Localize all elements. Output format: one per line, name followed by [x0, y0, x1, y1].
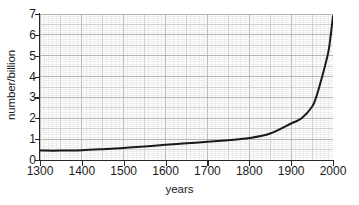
y-tick-mark	[35, 118, 39, 119]
x-tick-label: 1800	[236, 165, 263, 177]
x-axis-tick-labels: 13001400150016001700180019002000	[0, 165, 359, 181]
x-tick-mark	[124, 161, 125, 166]
x-tick-mark	[207, 161, 208, 166]
series-layer	[40, 14, 333, 160]
x-axis-spine	[39, 160, 334, 161]
y-axis-title: number/billion	[0, 0, 22, 170]
y-tick-mark	[35, 35, 39, 36]
x-tick-mark	[166, 161, 167, 166]
x-tick-label: 1900	[278, 165, 305, 177]
x-tick-label: 1600	[152, 165, 179, 177]
x-tick-label: 1700	[194, 165, 221, 177]
y-tick-mark	[35, 139, 39, 140]
x-tick-mark	[82, 161, 83, 166]
x-tick-label: 2000	[320, 165, 347, 177]
series-line	[40, 16, 333, 151]
y-tick-mark	[35, 14, 39, 15]
y-tick-mark	[35, 77, 39, 78]
plot-area	[40, 14, 333, 160]
x-tick-mark	[249, 161, 250, 166]
x-tick-label: 1400	[68, 165, 95, 177]
x-axis-title: years	[0, 183, 359, 195]
x-tick-label: 1300	[27, 165, 54, 177]
y-tick-mark	[35, 56, 39, 57]
y-tick-mark	[35, 97, 39, 98]
y-axis-title-text: number/billion	[5, 50, 17, 120]
population-growth-chart: number/billion 01234567 1300140015001600…	[0, 0, 359, 205]
y-axis-spine	[39, 13, 40, 161]
x-tick-label: 1500	[110, 165, 137, 177]
y-tick-mark	[35, 160, 39, 161]
x-tick-mark	[40, 161, 41, 166]
x-tick-mark	[291, 161, 292, 166]
x-tick-mark	[333, 161, 334, 166]
